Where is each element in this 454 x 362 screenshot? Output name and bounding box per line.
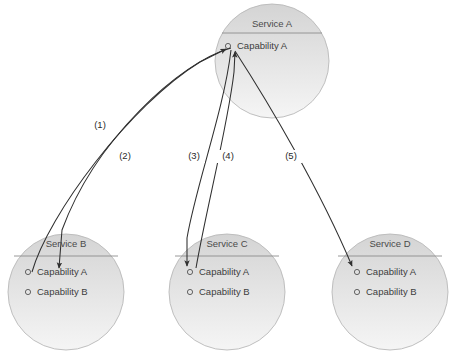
service-title: Service C	[206, 238, 247, 249]
diagram-canvas: Service ACapability AService BCapability…	[0, 0, 454, 362]
capability-label[interactable]: Capability A	[366, 266, 417, 277]
edge-label: (5)	[285, 150, 297, 161]
services-layer: Service ACapability AService BCapability…	[8, 4, 448, 350]
service-capability-diagram: Service ACapability AService BCapability…	[0, 0, 454, 362]
capability-label[interactable]: Capability A	[237, 40, 288, 51]
service-node-service-d[interactable]: Service DCapability ACapability B	[332, 234, 448, 350]
capability-label[interactable]: Capability B	[199, 286, 250, 297]
service-title: Service B	[46, 238, 87, 249]
service-node-service-c[interactable]: Service CCapability ACapability B	[169, 234, 285, 350]
service-title: Service D	[369, 238, 410, 249]
edge-label: (2)	[119, 150, 131, 161]
service-node-service-a[interactable]: Service ACapability A	[215, 4, 329, 118]
service-title: Service A	[252, 18, 293, 29]
edge-label: (1)	[94, 119, 106, 130]
service-node-service-b[interactable]: Service BCapability ACapability B	[8, 234, 124, 350]
capability-label[interactable]: Capability B	[366, 286, 417, 297]
capability-label[interactable]: Capability A	[37, 266, 88, 277]
edge-1[interactable]: (1)	[59, 48, 231, 268]
edge-arrow	[59, 48, 231, 268]
edge-label: (4)	[222, 150, 234, 161]
capability-label[interactable]: Capability B	[37, 286, 88, 297]
capability-label[interactable]: Capability A	[199, 266, 250, 277]
edge-label: (3)	[188, 150, 200, 161]
